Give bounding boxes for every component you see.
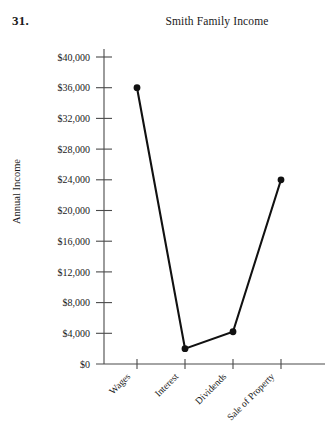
figure-container: 31. Smith Family Income Annual Income $0… bbox=[0, 0, 330, 444]
y-tick-label: $36,000 bbox=[58, 82, 91, 93]
x-tick-label: Sale of Property bbox=[225, 371, 277, 423]
income-series-line bbox=[137, 88, 281, 349]
income-series-points bbox=[134, 84, 285, 352]
x-tick-label: Dividends bbox=[193, 370, 229, 406]
line-chart-plot: $0$4,000$8,000$12,000$16,000$20,000$24,0… bbox=[0, 0, 330, 444]
data-point bbox=[182, 345, 189, 352]
y-tick-label: $0 bbox=[80, 359, 90, 370]
x-tick-labels: WagesInterestDividendsSale of Property bbox=[107, 370, 277, 422]
y-tick-label: $24,000 bbox=[58, 174, 91, 185]
y-tick-label: $40,000 bbox=[58, 52, 91, 63]
y-tick-label: $16,000 bbox=[58, 236, 91, 247]
y-tick-label: $12,000 bbox=[58, 267, 91, 278]
y-tick-label: $4,000 bbox=[63, 328, 91, 339]
x-tick-label: Wages bbox=[107, 370, 133, 396]
y-tick-labels: $0$4,000$8,000$12,000$16,000$20,000$24,0… bbox=[58, 52, 91, 370]
y-tick-label: $32,000 bbox=[58, 113, 91, 124]
data-point bbox=[134, 84, 141, 91]
y-tick-label: $28,000 bbox=[58, 144, 91, 155]
y-tick-label: $20,000 bbox=[58, 205, 91, 216]
data-point bbox=[230, 328, 237, 335]
x-tick-label: Interest bbox=[152, 370, 180, 398]
data-point bbox=[278, 176, 285, 183]
y-tick-label: $8,000 bbox=[63, 297, 91, 308]
